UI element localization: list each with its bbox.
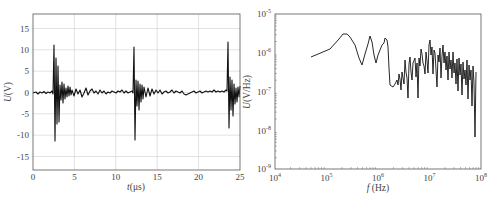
time-domain-plot: 15 10 5 0 -5 -10 -15 0 5 10 15 20 25 t(μ… [3,14,245,193]
figure: 15 10 5 0 -5 -10 -15 0 5 10 15 20 25 t(μ… [0,0,495,202]
right-plot-frame [275,14,481,169]
svg-text:105: 105 [321,172,333,183]
spectrum-line [311,34,476,137]
voltage-signal-line [33,42,240,141]
svg-text:25: 25 [236,172,246,182]
svg-text:-10: -10 [17,130,29,140]
left-x-axis-label: t(μs) [127,182,145,193]
svg-text:5: 5 [72,172,77,182]
svg-text:15: 15 [20,24,30,34]
right-y-axis-label: U(V/Hz) [242,75,253,109]
svg-text:-15: -15 [17,152,29,162]
svg-text:10: 10 [111,172,121,182]
right-x-axis-label: f (Hz) [367,183,389,194]
svg-text:0: 0 [31,172,36,182]
svg-text:15: 15 [153,172,163,182]
right-y-tick-labels: 10-5 10-6 10-7 10-8 10-9 [257,8,271,174]
svg-text:10-7: 10-7 [257,86,271,97]
left-y-tick-labels: 15 10 5 0 -5 -10 -15 [17,24,30,162]
svg-text:-5: -5 [22,109,30,119]
right-minor-ticks [275,16,479,169]
left-x-tick-labels: 0 5 10 15 20 25 [31,172,245,182]
svg-text:10: 10 [20,45,30,55]
svg-text:5: 5 [25,66,30,76]
svg-text:10-8: 10-8 [257,125,271,136]
svg-text:107: 107 [424,172,436,183]
svg-text:10-5: 10-5 [257,8,271,19]
svg-text:20: 20 [194,172,204,182]
left-y-axis-label: U(V) [3,82,14,102]
frequency-spectrum-plot: 10-5 10-6 10-7 10-8 10-9 104 105 106 107… [242,8,487,194]
svg-text:0: 0 [25,88,30,98]
right-x-tick-labels: 104 105 106 107 108 [269,172,487,183]
svg-text:104: 104 [269,172,281,183]
svg-text:108: 108 [475,172,487,183]
svg-text:106: 106 [372,172,384,183]
svg-text:10-6: 10-6 [257,47,271,58]
